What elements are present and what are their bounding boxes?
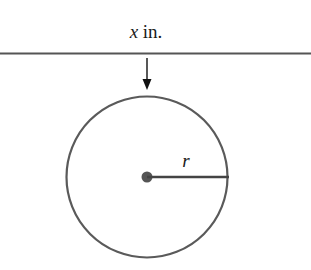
top-label: x in. (129, 21, 163, 42)
top-label-unit: in. (138, 21, 162, 42)
diagram: x in. r (0, 0, 311, 270)
radius-label: r (182, 150, 190, 171)
down-arrow-icon (143, 58, 152, 90)
